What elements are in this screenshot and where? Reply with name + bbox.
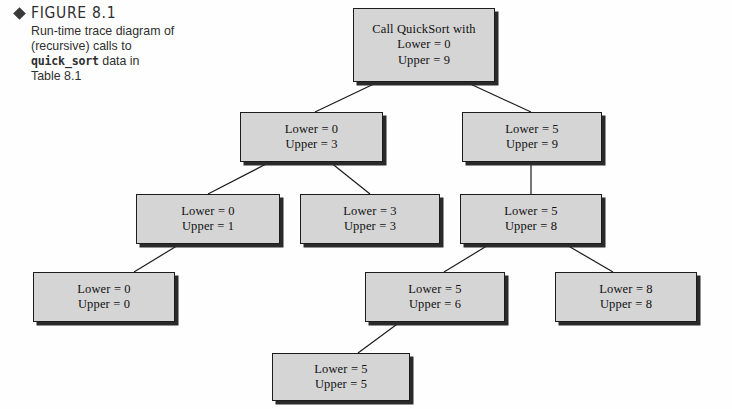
tree-node-lower: Lower = 3: [343, 204, 397, 220]
tree-edge-n0-n2: [466, 82, 531, 112]
tree-node-lower: Lower = 5: [505, 122, 559, 138]
tree-node-n6: Lower = 0Upper = 0: [33, 272, 175, 322]
tree-edge-n1-n3: [208, 162, 270, 194]
tree-node-lower: Lower = 8: [599, 282, 653, 298]
tree-node-upper: Upper = 3: [344, 219, 396, 235]
call-trace-tree: Call QuickSort withLower = 0Upper = 9Low…: [0, 0, 732, 409]
tree-node-upper: Upper = 0: [78, 297, 130, 313]
tree-node-upper: Upper = 9: [398, 53, 450, 69]
tree-edge-n7-n9: [358, 322, 400, 353]
tree-node-n0: Call QuickSort withLower = 0Upper = 9: [353, 8, 495, 82]
tree-edge-n1-n4: [330, 162, 370, 194]
tree-node-lower: Lower = 5: [408, 282, 462, 298]
tree-node-upper: Upper = 6: [409, 297, 461, 313]
tree-edge-n3-n6: [134, 244, 180, 272]
tree-node-n4: Lower = 3Upper = 3: [300, 194, 440, 244]
tree-node-lower: Lower = 0: [397, 37, 451, 53]
tree-node-title: Call QuickSort with: [372, 22, 476, 38]
tree-node-lower: Lower = 5: [504, 204, 558, 220]
tree-node-lower: Lower = 0: [285, 122, 339, 138]
tree-node-n3: Lower = 0Upper = 1: [136, 194, 280, 244]
tree-node-n9: Lower = 5Upper = 5: [272, 353, 410, 401]
tree-edge-n5-n8: [565, 244, 613, 272]
tree-node-upper: Upper = 8: [505, 219, 557, 235]
tree-node-upper: Upper = 9: [506, 137, 558, 153]
tree-node-upper: Upper = 5: [315, 377, 367, 393]
tree-node-lower: Lower = 5: [314, 362, 368, 378]
tree-node-upper: Upper = 3: [285, 137, 337, 153]
tree-node-lower: Lower = 0: [77, 282, 131, 298]
tree-node-n2: Lower = 5Upper = 9: [462, 112, 602, 162]
tree-edge-n0-n1: [315, 82, 378, 112]
tree-node-upper: Upper = 8: [600, 297, 652, 313]
tree-node-n8: Lower = 8Upper = 8: [555, 272, 697, 322]
tree-node-n5: Lower = 5Upper = 8: [460, 194, 602, 244]
tree-node-upper: Upper = 1: [182, 219, 234, 235]
tree-node-lower: Lower = 0: [181, 204, 235, 220]
tree-edge-n5-n7: [444, 244, 490, 272]
tree-node-n7: Lower = 5Upper = 6: [365, 272, 505, 322]
tree-node-n1: Lower = 0Upper = 3: [240, 112, 383, 162]
